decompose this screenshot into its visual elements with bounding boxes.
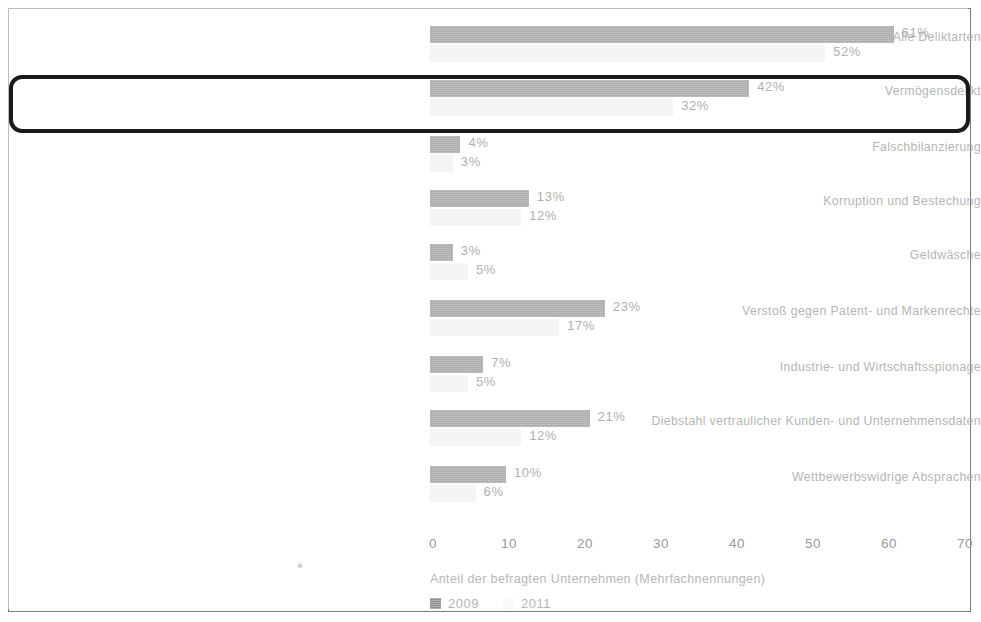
legend-label: 2009 [448,596,479,611]
bar-value-label-2009: 42% [757,79,785,94]
bar-2011 [430,99,673,116]
category-label-text: Korruption und Bestechung [823,194,981,208]
bar-2011 [430,45,825,62]
x-axis-tick: 0 [429,536,437,551]
category-label-text: Geldwäsche [910,248,981,262]
bar-2011 [430,485,476,502]
bar-value-label-2009: 23% [613,299,641,314]
bar-value-label-2009: 13% [537,189,565,204]
bar-2009 [430,300,605,317]
category-label-text: Verstoß gegen Patent- und Markenrechte [742,304,981,318]
x-axis-tick: 70 [957,536,973,551]
bar-2009 [430,244,453,261]
bar-value-label-2009: 4% [468,135,488,150]
legend-label: 2011 [521,596,551,611]
chart-legend: 20092011 [430,596,575,611]
bar-value-label-2011: 5% [476,374,496,389]
x-axis-label: Anteil der befragten Unternehmen (Mehrfa… [430,572,765,586]
bar-chart: Alle Deliktarten61%52%Vermögensdelikt42%… [0,0,981,622]
legend-item-2011: 2011 [503,596,551,611]
bar-value-label-2009: 7% [491,355,511,370]
bar-value-label-2009: 3% [461,243,481,258]
bar-2009 [430,80,749,97]
x-axis-tick: 20 [577,536,593,551]
bar-value-label-2011: 5% [476,262,496,277]
bar-2011 [430,319,559,336]
bar-2009 [430,136,460,153]
category-label-text: Falschbilanzierung [872,140,981,154]
bar-2009 [430,410,590,427]
bar-2011 [430,209,521,226]
solid-gray-swatch [430,598,441,609]
category-label: Diebstahl vertraulicher Kunden- und Unte… [591,414,981,428]
category-label-text: Industrie- und Wirtschaftsspionage [780,360,981,374]
bar-value-label-2009: 61% [902,25,930,40]
bar-value-label-2009: 21% [598,409,626,424]
x-axis-tick: 40 [729,536,745,551]
category-label-text: Diebstahl vertraulicher Kunden- und Unte… [651,414,981,428]
category-label-text: Wettbewerbswidrige Absprachen [792,470,981,484]
bar-2011 [430,155,453,172]
x-axis-tick: 50 [805,536,821,551]
legend-item-2009: 2009 [430,596,479,611]
bar-2011 [430,375,468,392]
light-gray-swatch [503,598,514,609]
category-label: Geldwäsche [591,248,981,262]
category-label: Industrie- und Wirtschaftsspionage [591,360,981,374]
bar-value-label-2009: 10% [514,465,542,480]
bar-2011 [430,263,468,280]
bar-value-label-2011: 52% [833,44,861,59]
bar-2009 [430,190,529,207]
chart-row: Verstoß gegen Patent- und Markenrechte23… [0,296,981,350]
bar-value-label-2011: 12% [529,428,557,443]
x-axis-tick: 10 [501,536,517,551]
bar-value-label-2011: 3% [461,154,481,169]
category-label: Falschbilanzierung [591,140,981,154]
bar-2011 [430,429,521,446]
chart-row: Geldwäsche3%5% [0,240,981,294]
chart-row: Korruption und Bestechung13%12% [0,186,981,240]
chart-row: Wettbewerbswidrige Absprachen10%6% [0,462,981,516]
chart-row: Falschbilanzierung4%3% [0,132,981,186]
x-axis-tick: 30 [653,536,669,551]
x-axis-tick: 60 [881,536,897,551]
category-label: Wettbewerbswidrige Absprachen [591,470,981,484]
chart-row: Industrie- und Wirtschaftsspionage7%5% [0,352,981,406]
chart-row: Vermögensdelikt42%32% [0,76,981,130]
footnote-asterisk: * [297,563,303,573]
bar-value-label-2011: 17% [567,318,595,333]
bar-value-label-2011: 12% [529,208,557,223]
bar-2009 [430,356,483,373]
category-label: Verstoß gegen Patent- und Markenrechte [591,304,981,318]
bar-value-label-2011: 32% [681,98,709,113]
chart-row: Diebstahl vertraulicher Kunden- und Unte… [0,406,981,460]
chart-row: Alle Deliktarten61%52% [0,22,981,76]
bar-2009 [430,466,506,483]
category-label-text: Vermögensdelikt [885,84,981,98]
bar-value-label-2011: 6% [484,484,504,499]
category-label: Korruption und Bestechung [591,194,981,208]
bar-2009 [430,26,894,43]
x-axis: 010203040506070 [0,536,981,558]
